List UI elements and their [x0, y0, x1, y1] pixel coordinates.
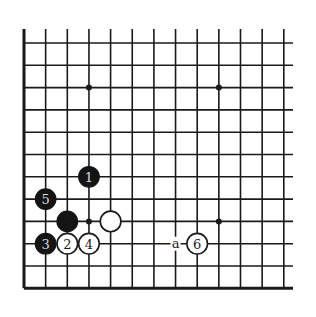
move-number: 4 [85, 237, 93, 252]
move-number: 1 [85, 170, 93, 185]
white-stone [100, 211, 121, 232]
black-stone-3: 3 [35, 233, 56, 254]
point-label-a: a [172, 236, 180, 251]
black-stone [57, 211, 78, 232]
go-board: a 123456 [0, 0, 316, 317]
stone-circle [57, 211, 78, 232]
white-stone-2: 2 [57, 233, 78, 254]
move-number: 6 [193, 237, 201, 252]
black-stone-5: 5 [35, 189, 56, 210]
white-stone-6: 6 [187, 233, 208, 254]
star-point [216, 218, 222, 224]
star-point [86, 85, 92, 91]
stone-circle [100, 211, 121, 232]
move-number: 3 [42, 237, 50, 252]
black-stone-1: 1 [79, 167, 100, 188]
white-stone-4: 4 [79, 233, 100, 254]
board-stones: 123456 [35, 167, 207, 255]
star-point [216, 85, 222, 91]
star-point [86, 218, 92, 224]
move-number: 2 [63, 237, 71, 252]
board-markers: a [171, 236, 181, 251]
move-number: 5 [42, 192, 50, 207]
